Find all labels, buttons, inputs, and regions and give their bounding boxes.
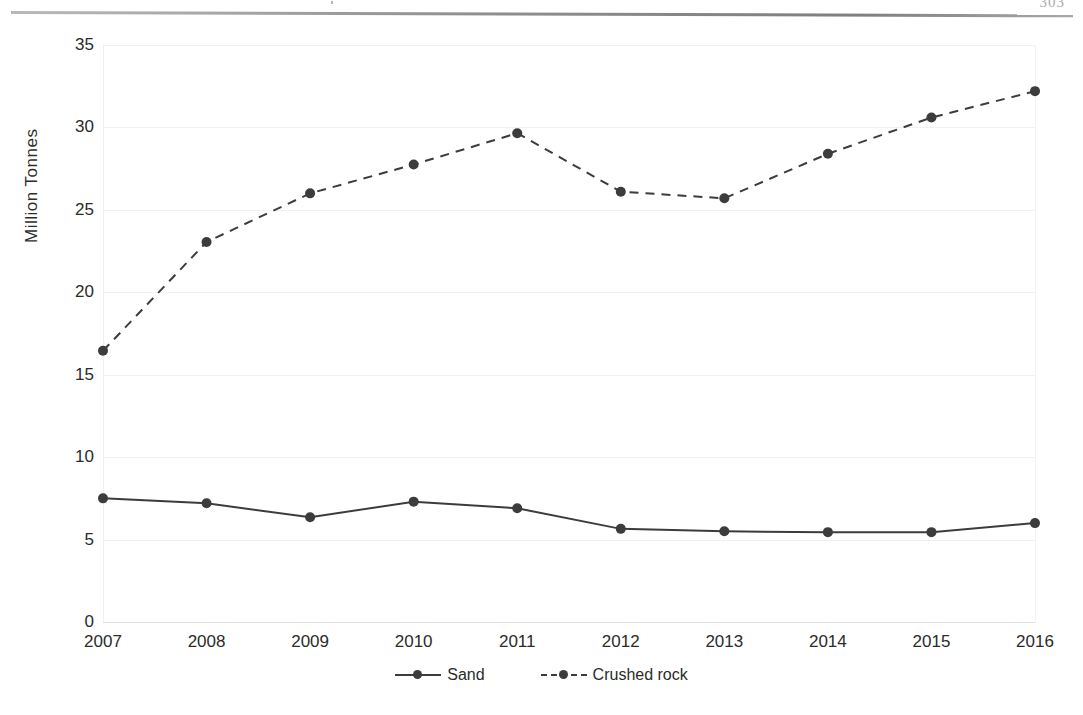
- y-axis-tick-label: 10: [48, 447, 94, 467]
- x-axis-tick-label: 2009: [265, 632, 355, 652]
- gridline: [103, 127, 1035, 128]
- y-axis-tick-label: 20: [48, 282, 94, 302]
- y-axis-tick-label: 25: [48, 200, 94, 220]
- data-point-marker: [512, 128, 522, 138]
- data-point-marker: [202, 237, 212, 247]
- y-axis-tick-label: 35: [48, 35, 94, 55]
- x-axis-tick-label: 2014: [783, 632, 873, 652]
- data-point-marker: [305, 512, 315, 522]
- y-axis-line: [103, 45, 104, 623]
- series-line-crushed-rock: [103, 91, 1035, 351]
- plot-right-edge: [1035, 45, 1036, 623]
- data-point-marker: [926, 527, 936, 537]
- gridline: [103, 292, 1035, 293]
- legend-marker-dot-icon: [559, 670, 568, 679]
- data-point-marker: [409, 497, 419, 507]
- y-axis-tick-labels: 05101520253035: [38, 0, 94, 715]
- x-axis-tick-label: 2007: [58, 632, 148, 652]
- line-chart: Million Tonnes 05101520253035 2007200820…: [0, 0, 1083, 715]
- gridline: [103, 540, 1035, 541]
- legend-key-icon: [395, 668, 441, 682]
- data-point-marker: [616, 524, 626, 534]
- document-page: 303 Million Tonnes 05101520253035 200720…: [0, 0, 1083, 715]
- gridline: [103, 210, 1035, 211]
- x-axis-line: [103, 622, 1035, 623]
- y-axis-tick-label: 30: [48, 117, 94, 137]
- x-axis-tick-label: 2010: [369, 632, 459, 652]
- legend-key-icon: [541, 668, 587, 682]
- x-axis-tick-label: 2011: [472, 632, 562, 652]
- x-axis-tick-label: 2013: [679, 632, 769, 652]
- legend-marker-dot-icon: [413, 670, 422, 679]
- y-axis-tick-label: 0: [48, 612, 94, 632]
- legend-item-crushed-rock[interactable]: Crushed rock: [541, 666, 688, 684]
- x-axis-tick-label: 2008: [162, 632, 252, 652]
- data-point-marker: [202, 498, 212, 508]
- data-point-marker: [719, 526, 729, 536]
- data-point-marker: [409, 160, 419, 170]
- gridline: [103, 45, 1035, 46]
- x-axis-tick-label: 2016: [990, 632, 1080, 652]
- data-point-marker: [823, 149, 833, 159]
- data-point-marker: [926, 113, 936, 123]
- data-point-marker: [305, 188, 315, 198]
- legend-label: Crushed rock: [593, 666, 688, 684]
- data-point-marker: [512, 503, 522, 513]
- gridline: [103, 375, 1035, 376]
- legend-label: Sand: [447, 666, 484, 684]
- x-axis-tick-label: 2012: [576, 632, 666, 652]
- data-point-marker: [823, 527, 833, 537]
- x-axis-tick-label: 2015: [886, 632, 976, 652]
- y-axis-tick-label: 15: [48, 365, 94, 385]
- legend-item-sand[interactable]: Sand: [395, 666, 484, 684]
- data-point-marker: [719, 193, 729, 203]
- series-line-sand: [103, 498, 1035, 532]
- data-point-marker: [616, 187, 626, 197]
- gridline: [103, 457, 1035, 458]
- series-layer: [0, 0, 1083, 715]
- chart-legend: SandCrushed rock: [0, 666, 1083, 684]
- y-axis-tick-label: 5: [48, 530, 94, 550]
